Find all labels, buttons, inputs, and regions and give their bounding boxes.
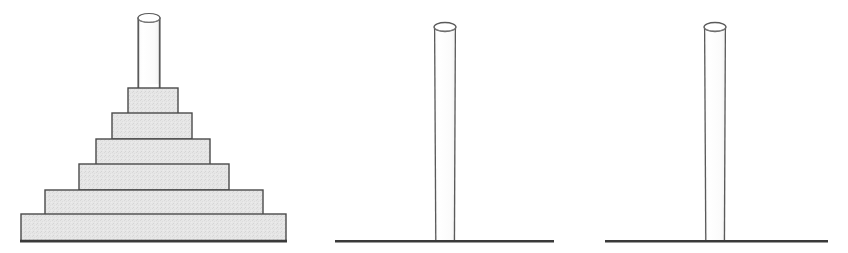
pyramid-step-2 [112,113,192,139]
column-three-shaft [704,27,726,241]
pyramid-column-shaft [138,18,160,89]
pyramid-column [138,14,160,93]
diagram-svg [0,0,848,253]
figure-column-two [335,23,554,242]
diagram-canvas [0,0,848,253]
figure-stepped-pyramid [20,14,287,242]
pyramid-step-4 [79,164,229,190]
pyramid-step-3 [96,139,210,165]
column-two-shaft [434,27,456,241]
pyramid-step-1 [128,88,178,114]
pyramid-step-6 [21,214,286,241]
pyramid-steps [21,88,286,241]
pyramid-step-5 [45,190,263,215]
figure-column-three [605,23,828,242]
